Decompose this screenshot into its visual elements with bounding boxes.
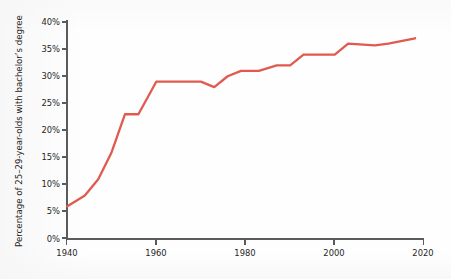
y-tick-label-25: 25% [41,98,60,108]
y-tick-label-40: 40% [41,17,60,27]
data-series-bachelors-degree [67,38,415,206]
x-tick-label-2000: 2000 [323,248,344,258]
x-tick-label-1940: 1940 [56,248,77,258]
x-tick-label-1960: 1960 [145,248,166,258]
x-tick-label-1980: 1980 [234,248,255,258]
y-tick-label-35: 35% [41,44,60,54]
x-tick-label-2020: 2020 [412,248,433,258]
line-chart: Percentage of 25–29-year-olds with bache… [0,0,451,279]
y-tick-label-5: 5% [47,206,60,216]
y-tick-label-0: 0% [47,234,60,244]
y-tick-label-15: 15% [41,152,60,162]
y-tick-label-10: 10% [41,179,60,189]
y-tick-label-30: 30% [41,71,60,81]
y-axis-title: Percentage of 25–29-year-olds with bache… [14,15,24,247]
chart-container: Percentage of 25–29-year-olds with bache… [0,0,451,279]
y-tick-label-20: 20% [41,125,60,135]
